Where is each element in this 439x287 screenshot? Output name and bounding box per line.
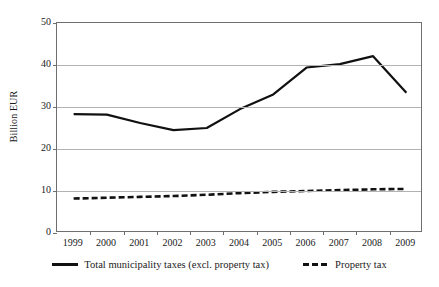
x-axis-tick-mark xyxy=(223,231,224,235)
legend-item-total-municipality-taxes: Total municipality taxes (excl. property… xyxy=(52,259,269,270)
x-axis-tick-mark xyxy=(356,231,357,235)
x-axis-tick-mark xyxy=(290,231,291,235)
line-chart: Billion EUR 01020304050 1999200020012002… xyxy=(0,0,439,287)
y-axis-tick-mark xyxy=(53,191,57,192)
y-axis-tick-mark xyxy=(53,107,57,108)
x-axis-tick-label: 2009 xyxy=(385,238,425,248)
y-axis-tick-label: 40 xyxy=(11,59,51,69)
gridline xyxy=(57,149,421,150)
plot-area xyxy=(56,22,422,232)
gridline xyxy=(57,191,421,192)
y-axis-tick-mark xyxy=(53,149,57,150)
chart-legend: Total municipality taxes (excl. property… xyxy=(0,259,439,270)
x-axis-tick-mark xyxy=(257,231,258,235)
x-axis-tick-mark xyxy=(323,231,324,235)
gridline xyxy=(57,107,421,108)
y-axis-tick-mark xyxy=(53,65,57,66)
series-layer xyxy=(57,23,423,233)
y-axis-tick-label: 50 xyxy=(11,17,51,27)
legend-label-property-tax: Property tax xyxy=(335,259,387,270)
legend-swatch-solid-line-icon xyxy=(52,263,78,266)
legend-item-property-tax: Property tax xyxy=(303,259,387,270)
y-axis-tick-label: 30 xyxy=(11,101,51,111)
x-axis-tick-mark xyxy=(157,231,158,235)
x-axis-tick-mark xyxy=(90,231,91,235)
x-axis-tick-mark xyxy=(124,231,125,235)
legend-swatch-dashed-line-icon xyxy=(303,263,329,266)
y-axis-tick-label: 20 xyxy=(11,143,51,153)
y-axis-title: Billion EUR xyxy=(5,0,23,232)
y-axis-tick-mark xyxy=(53,23,57,24)
x-axis-tick-mark xyxy=(390,231,391,235)
y-axis-tick-label: 0 xyxy=(11,227,51,237)
gridline xyxy=(57,65,421,66)
series-line-1 xyxy=(74,56,407,130)
y-axis-tick-label: 10 xyxy=(11,185,51,195)
y-axis-title-label: Billion EUR xyxy=(9,90,20,141)
x-axis-tick-mark xyxy=(190,231,191,235)
legend-label-total-municipality-taxes: Total municipality taxes (excl. property… xyxy=(84,259,269,270)
y-axis-tick-mark xyxy=(53,233,57,234)
